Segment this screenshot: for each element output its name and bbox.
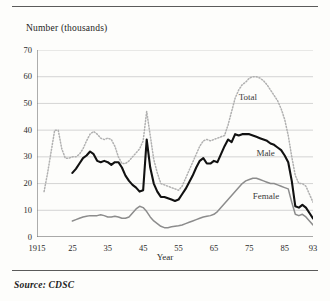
y-tick-10: 10 <box>10 205 32 215</box>
source-note: Source: CDSC <box>14 280 74 290</box>
series-label-total: Total <box>239 92 257 102</box>
x-axis-title: Year <box>0 252 330 262</box>
x-tick-55: 55 <box>163 243 195 253</box>
figure-container: Number (thousands) Year Source: CDSC 010… <box>0 0 330 301</box>
x-tick-65: 65 <box>198 243 230 253</box>
y-tick-40: 40 <box>10 125 32 135</box>
series-label-female: Female <box>253 191 280 201</box>
x-tick-25: 25 <box>56 243 88 253</box>
x-tick-45: 45 <box>127 243 159 253</box>
x-tick-85: 85 <box>269 243 301 253</box>
series-line-female <box>72 178 313 227</box>
y-tick-50: 50 <box>10 98 32 108</box>
x-tick-1915: 1915 <box>21 243 53 253</box>
series-label-male: Male <box>256 148 275 158</box>
plot-area <box>37 50 313 237</box>
y-tick-30: 30 <box>10 151 32 161</box>
y-tick-20: 20 <box>10 178 32 188</box>
y-tick-60: 60 <box>10 71 32 81</box>
x-tick-75: 75 <box>233 243 265 253</box>
top-rule <box>12 6 318 7</box>
x-tick-93: 93 <box>297 243 329 253</box>
x-tick-35: 35 <box>92 243 124 253</box>
y-axis-title: Number (thousands) <box>26 23 107 33</box>
series-line-male <box>72 134 313 218</box>
bottom-rule <box>12 270 318 271</box>
chart-svg <box>37 50 313 237</box>
y-tick-70: 70 <box>10 45 32 55</box>
y-tick-0: 0 <box>10 232 32 242</box>
